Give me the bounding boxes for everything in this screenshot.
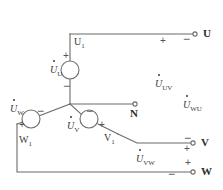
terminal-label-n: N <box>130 108 138 119</box>
polarity-w-line-minus: − <box>168 168 175 180</box>
phasor-w-phase-letter: U <box>10 104 17 114</box>
terminal-dot-v <box>191 141 195 145</box>
phasor-vw-letter: U <box>136 154 143 164</box>
phasor-v-phase-sub: V <box>74 126 79 134</box>
phasor-label-u-phase: UU <box>50 65 62 78</box>
polarity-source-v-plus: + <box>99 120 105 130</box>
phasor-u-phase-sub: U <box>57 70 62 78</box>
polarity-u-line-minus: − <box>183 33 190 45</box>
phasor-u-phase-letter: U <box>50 65 57 75</box>
phasor-wu-letter: U <box>183 100 190 110</box>
phasor-w-phase-sub: W <box>17 109 24 117</box>
terminal-label-w: W <box>201 166 212 177</box>
phasor-label-line-uv: UUV <box>155 79 172 92</box>
polarity-source-w-minus: − <box>37 105 44 117</box>
winding-node-v1-sub: 1 <box>111 138 115 146</box>
winding-node-v1: V1 <box>104 133 115 146</box>
phasor-label-line-wu: UWU <box>183 100 202 113</box>
phasor-uv-sub: UV <box>162 84 172 92</box>
phasor-v-phase-letter: U <box>67 121 74 131</box>
winding-node-u1-sub: 1 <box>81 42 85 50</box>
polarity-w-line-plus: + <box>185 158 191 168</box>
phasor-wu-sub: WU <box>190 105 202 113</box>
polarity-source-u-plus: + <box>63 51 69 61</box>
polarity-source-w-plus: + <box>19 120 25 130</box>
winding-node-u1: U1 <box>74 37 85 50</box>
winding-node-w1: W1 <box>19 135 32 148</box>
phasor-dot-icon <box>53 60 55 62</box>
polarity-v-line-plus: + <box>184 144 190 154</box>
terminal-dot-n <box>133 102 137 106</box>
wire-v-line <box>118 134 192 143</box>
terminal-label-v: V <box>201 137 209 148</box>
terminal-dot-u <box>193 32 197 36</box>
circuit-diagram: U N V W U1 W1 V1 UU UW UV UUV UWU UVW + … <box>0 0 223 190</box>
phasor-label-w-phase: UW <box>10 104 24 117</box>
winding-node-w1-sub: 1 <box>28 140 32 148</box>
phasor-dot-icon <box>13 99 15 101</box>
polarity-u-line-plus: + <box>160 36 166 46</box>
terminal-label-u: U <box>203 28 211 39</box>
phasor-dot-icon <box>70 116 72 118</box>
polarity-source-u-minus: − <box>63 80 70 92</box>
phasor-label-v-phase: UV <box>67 121 79 134</box>
phasor-uv-letter: U <box>155 79 162 89</box>
phasor-dot-icon <box>139 149 141 151</box>
phasor-vw-sub: VW <box>143 159 155 167</box>
terminal-dot-w <box>191 170 195 174</box>
phasor-dot-icon <box>158 74 160 76</box>
polarity-source-v-minus: − <box>86 105 93 117</box>
phasor-dot-icon <box>186 95 188 97</box>
source-circle-u <box>61 61 79 79</box>
phasor-label-line-vw: UVW <box>136 154 155 167</box>
wire-v-branch-upper <box>70 104 81 114</box>
